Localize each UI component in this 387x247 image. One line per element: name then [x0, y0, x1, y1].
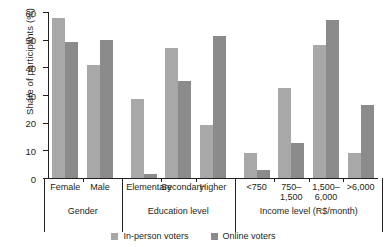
y-tick-label: 30	[25, 90, 36, 101]
bar	[200, 125, 213, 178]
bar	[326, 20, 339, 178]
group-label: Income level (R$/month)	[239, 206, 378, 216]
x-category-label: Higher	[196, 182, 231, 192]
y-tick-20: 20	[43, 123, 48, 124]
y-tick-label: 0	[31, 173, 36, 184]
bar	[52, 18, 65, 178]
y-tick-label: 10	[25, 145, 36, 156]
category-labels: FemaleMaleElementarySecondaryHigher<7507…	[48, 182, 378, 204]
group-separator	[44, 178, 45, 232]
y-axis-line	[48, 12, 49, 178]
x-category-label: Secondary	[161, 182, 196, 192]
bar	[348, 153, 361, 178]
y-tick-30: 30	[43, 95, 48, 96]
bar-chart: Share of participants (%) 0102030405060 …	[0, 0, 387, 247]
x-category-label: 1,500– 6,000	[309, 182, 344, 202]
y-tick-label: 20	[25, 118, 36, 129]
y-tick-50: 50	[43, 40, 48, 41]
bar	[178, 81, 191, 178]
x-axis-line	[48, 178, 378, 179]
legend-swatch-icon	[211, 233, 218, 240]
bar	[278, 88, 291, 178]
bar	[244, 153, 257, 178]
group-label: Gender	[48, 206, 117, 216]
x-category-label: Elementary	[126, 182, 161, 192]
group-label: Education level	[126, 206, 230, 216]
bar	[257, 170, 270, 178]
group-labels: GenderEducation levelIncome level (R$/mo…	[48, 206, 378, 220]
legend-label: Online voters	[223, 231, 276, 241]
y-tick-10: 10	[43, 150, 48, 151]
plot-area: 0102030405060	[48, 12, 378, 178]
bar	[213, 36, 226, 178]
bar	[65, 42, 78, 178]
y-tick-label: 60	[25, 7, 36, 18]
y-tick-label: 40	[25, 62, 36, 73]
bar	[131, 99, 144, 178]
y-tick-40: 40	[43, 67, 48, 68]
bar	[291, 143, 304, 178]
x-category-label: Male	[83, 182, 118, 192]
bar	[100, 40, 113, 178]
bar	[313, 45, 326, 178]
legend-swatch-icon	[111, 233, 118, 240]
legend-item: Online voters	[211, 231, 276, 241]
x-category-label: <750	[239, 182, 274, 192]
group-separator	[382, 178, 383, 232]
x-category-label: 750– 1,500	[274, 182, 309, 202]
x-category-label: Female	[48, 182, 83, 192]
legend-label: In-person voters	[123, 231, 188, 241]
y-tick-60: 60	[43, 12, 48, 13]
legend-item: In-person voters	[111, 231, 188, 241]
y-tick-label: 50	[25, 35, 36, 46]
chart-legend: In-person votersOnline voters	[0, 228, 387, 244]
bar	[361, 105, 374, 178]
bar	[165, 48, 178, 178]
bar	[144, 174, 157, 178]
x-category-label: >6,000	[343, 182, 378, 192]
bar	[87, 65, 100, 178]
